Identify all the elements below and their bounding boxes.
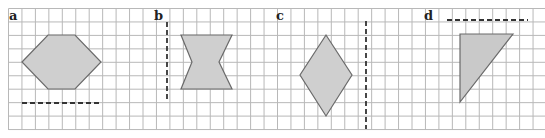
panel-c: c (276, 8, 366, 129)
panel-label-c: c (276, 8, 284, 23)
grid-diagram: a b c d (0, 0, 545, 138)
panel-label-b: b (154, 8, 163, 23)
triangle-shape (460, 34, 513, 102)
panel-label-a: a (9, 8, 18, 23)
rhombus-shape (300, 35, 352, 116)
panel-label-d: d (424, 8, 433, 23)
